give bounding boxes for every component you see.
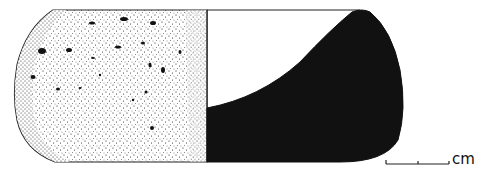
scale-unit-label: cm <box>452 150 475 168</box>
vessel-section <box>207 10 403 162</box>
vessel-exterior <box>15 10 208 162</box>
vessel-drawing <box>0 0 484 178</box>
scale-bar <box>386 160 449 164</box>
